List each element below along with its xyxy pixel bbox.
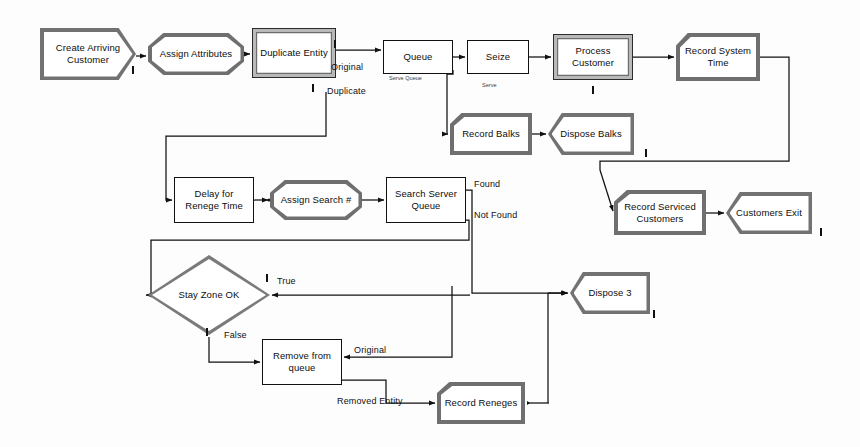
wire-rst-diagonal bbox=[607, 161, 613, 178]
node-assign-attributes[interactable]: Assign Attributes bbox=[148, 33, 244, 75]
edge-label-original-removed: Original bbox=[354, 345, 386, 355]
edge-label-true: True bbox=[277, 276, 296, 286]
wire-reneges-to-dispose3 bbox=[525, 293, 548, 403]
node-dispose-balks[interactable]: Dispose Balks bbox=[548, 113, 634, 155]
edge-label-original-duplicate: Original bbox=[331, 62, 363, 72]
node-label: Dispose 3 bbox=[585, 287, 634, 299]
node-label: Duplicate Entity bbox=[257, 47, 331, 59]
node-label: Assign Attributes bbox=[157, 48, 235, 60]
edge-label-removed-entity: Removed Entity bbox=[337, 396, 403, 406]
node-record-balks[interactable]: Record Balks bbox=[450, 113, 532, 155]
node-label: Record Reneges bbox=[442, 397, 521, 409]
wire-reneges-out bbox=[527, 293, 566, 403]
node-label: Create ArrivingCustomer bbox=[53, 42, 123, 65]
port-tick-true bbox=[266, 274, 268, 282]
port-tick-dispose-balks-out bbox=[645, 149, 647, 157]
node-queue[interactable]: Queue bbox=[383, 40, 453, 74]
port-tick-dispose3-out bbox=[653, 310, 655, 318]
edge-label-duplicate: Duplicate bbox=[327, 86, 366, 96]
flowchart-canvas: Create ArrivingCustomer Assign Attribute… bbox=[0, 0, 860, 447]
node-label: Stay Zone OK bbox=[176, 289, 243, 301]
port-tick-duplicate-duplicate bbox=[312, 84, 314, 92]
node-label: ProcessCustomer bbox=[569, 45, 617, 68]
node-search-server-queue[interactable]: Search ServerQueue bbox=[386, 177, 466, 223]
node-customers-exit[interactable]: Customers Exit bbox=[726, 192, 812, 234]
node-label: Customers Exit bbox=[733, 207, 805, 219]
edge-label-false: False bbox=[224, 330, 247, 340]
node-label: Dispose Balks bbox=[557, 128, 625, 140]
edge-label-serve: Serve bbox=[482, 82, 497, 88]
node-stay-zone-ok[interactable]: Stay Zone OK bbox=[148, 255, 270, 335]
node-label: Seize bbox=[483, 51, 513, 63]
node-dispose-3[interactable]: Dispose 3 bbox=[570, 272, 650, 314]
node-label: Record ServicedCustomers bbox=[621, 201, 699, 224]
node-record-serviced-customers[interactable]: Record ServicedCustomers bbox=[614, 190, 706, 235]
node-delay-for-renege-time[interactable]: Delay forRenege Time bbox=[174, 177, 254, 223]
edge-label-serve-queue: Serve Queue bbox=[389, 75, 422, 81]
port-tick-process-out bbox=[592, 86, 594, 94]
wire-rst-elbow-to-serviced bbox=[600, 161, 613, 170]
edge-label-found: Found bbox=[474, 179, 500, 189]
node-create-arriving-customer[interactable]: Create ArrivingCustomer bbox=[40, 28, 136, 80]
node-assign-search-number[interactable]: Assign Search # bbox=[270, 180, 362, 220]
node-seize[interactable]: Seize bbox=[467, 40, 529, 74]
port-tick-false bbox=[206, 328, 208, 336]
wire-search-found-to-dispose3 bbox=[466, 190, 568, 293]
node-label: Delay forRenege Time bbox=[182, 188, 246, 211]
node-label: Assign Search # bbox=[278, 194, 355, 206]
node-record-reneges[interactable]: Record Reneges bbox=[437, 382, 525, 424]
port-tick-create-out bbox=[132, 66, 134, 74]
node-label: Record SystemTime bbox=[682, 45, 754, 68]
node-label: Record Balks bbox=[459, 128, 523, 140]
node-duplicate-entity[interactable]: Duplicate Entity bbox=[252, 28, 336, 78]
port-tick-customers-exit-out bbox=[820, 228, 822, 236]
port-tick-duplicate-original bbox=[334, 40, 336, 48]
wire-rst-to-serviced-diag bbox=[596, 161, 613, 212]
node-remove-from-queue[interactable]: Remove fromqueue bbox=[262, 339, 342, 385]
node-process-customer[interactable]: ProcessCustomer bbox=[553, 34, 633, 80]
wire-diag-into-serviced bbox=[600, 170, 613, 211]
node-record-system-time[interactable]: Record SystemTime bbox=[676, 33, 760, 81]
node-label: Queue bbox=[400, 51, 435, 63]
node-label: Remove fromqueue bbox=[270, 350, 334, 373]
edge-label-not-found: Not Found bbox=[474, 210, 517, 220]
node-label: Search ServerQueue bbox=[392, 188, 460, 211]
wire-stayzone-false-to-remove bbox=[209, 337, 260, 362]
